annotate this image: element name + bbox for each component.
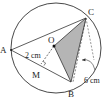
dimension-leader bbox=[82, 60, 95, 70]
circle-diagram: A C B O M 2 cm 6 cm bbox=[0, 0, 112, 99]
label-arc-length: 6 cm bbox=[84, 76, 101, 85]
dashed-line-c-arc bbox=[86, 18, 94, 60]
label-c: C bbox=[88, 7, 94, 17]
point-a bbox=[10, 49, 12, 51]
label-a: A bbox=[0, 45, 7, 55]
arrow-head-icon bbox=[82, 58, 86, 61]
label-om-length: 2 cm bbox=[25, 51, 42, 60]
segment-om bbox=[41, 46, 54, 64]
label-m: M bbox=[32, 70, 40, 80]
label-b: B bbox=[68, 89, 74, 99]
shaded-triangle-obc bbox=[54, 18, 86, 82]
right-angle-mark bbox=[43, 61, 46, 65]
label-o: O bbox=[48, 35, 55, 45]
geometry-figure: A C B O M 2 cm 6 cm bbox=[0, 0, 112, 99]
